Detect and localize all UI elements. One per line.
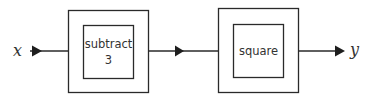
output-label: y	[349, 40, 360, 59]
outer-box	[69, 11, 149, 93]
connector-arrow	[148, 46, 218, 57]
input-label: x	[13, 41, 22, 60]
block-label-line2: 3	[105, 53, 112, 67]
arrowhead-icon	[175, 46, 184, 57]
arrowhead-icon	[32, 46, 42, 57]
block-label-line1: subtract	[85, 37, 133, 51]
block-square: square	[219, 9, 299, 93]
block-diagram: x subtract 3 square y	[0, 0, 370, 98]
arrowhead-icon	[335, 46, 345, 57]
block-subtract: subtract 3	[69, 11, 149, 93]
inner-box	[84, 26, 134, 79]
output-arrow	[298, 46, 345, 57]
block-label: square	[239, 44, 278, 58]
input-arrow	[30, 46, 68, 57]
